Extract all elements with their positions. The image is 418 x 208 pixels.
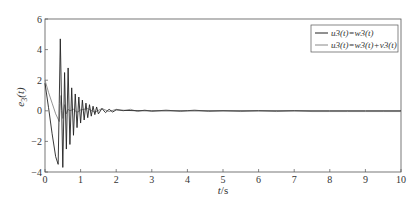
legend: u3(t)=w3(t) u3(t)=w3(t)+v3(t) <box>311 25 398 52</box>
x-tick-label: 7 <box>292 174 297 185</box>
y-tick-label: 6 <box>37 14 42 25</box>
y-tick-label: −2 <box>31 136 42 147</box>
legend-label-1: u3(t)=w3(t) <box>331 28 374 38</box>
y-tick-label: 4 <box>37 44 42 55</box>
x-tick-label: 9 <box>363 174 368 185</box>
x-tick-label: 10 <box>396 174 406 185</box>
y-tick-label: 2 <box>37 75 42 86</box>
x-tick-label: 4 <box>185 174 190 185</box>
y-tick-label: 0 <box>37 105 42 116</box>
y-tick-label: −4 <box>31 167 42 178</box>
x-tick-label: 8 <box>327 174 332 185</box>
x-tick-label: 0 <box>43 174 48 185</box>
x-tick-label: 2 <box>114 174 119 185</box>
x-tick-label: 6 <box>256 174 261 185</box>
x-tick-label: 3 <box>149 174 154 185</box>
y-axis-label: e3(t) <box>14 87 29 107</box>
x-axis-label: t/s <box>218 184 228 196</box>
line-chart: 012345678910 −4−20246 t/s e3(t) u3(t)=w3… <box>0 0 418 208</box>
legend-label-2: u3(t)=w3(t)+v3(t) <box>331 40 397 50</box>
x-tick-label: 1 <box>78 174 83 185</box>
